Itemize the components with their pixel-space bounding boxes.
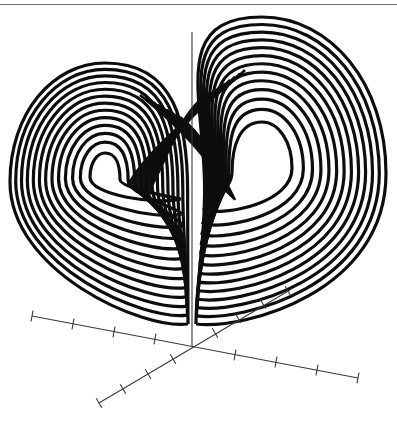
horizontal-axis	[32, 316, 358, 378]
lorenz-attractor-plot	[0, 0, 397, 421]
depth-axis-tick	[96, 398, 102, 407]
depth-axis	[99, 290, 290, 403]
chart-figure: Lorenz attractor	[0, 0, 397, 421]
left-lobe	[10, 63, 188, 324]
depth-axis-tick	[170, 354, 176, 363]
depth-axis-tick	[145, 369, 151, 378]
trajectory-curve	[10, 17, 386, 325]
right-lobe	[196, 17, 386, 325]
depth-axis-tick	[120, 384, 126, 393]
